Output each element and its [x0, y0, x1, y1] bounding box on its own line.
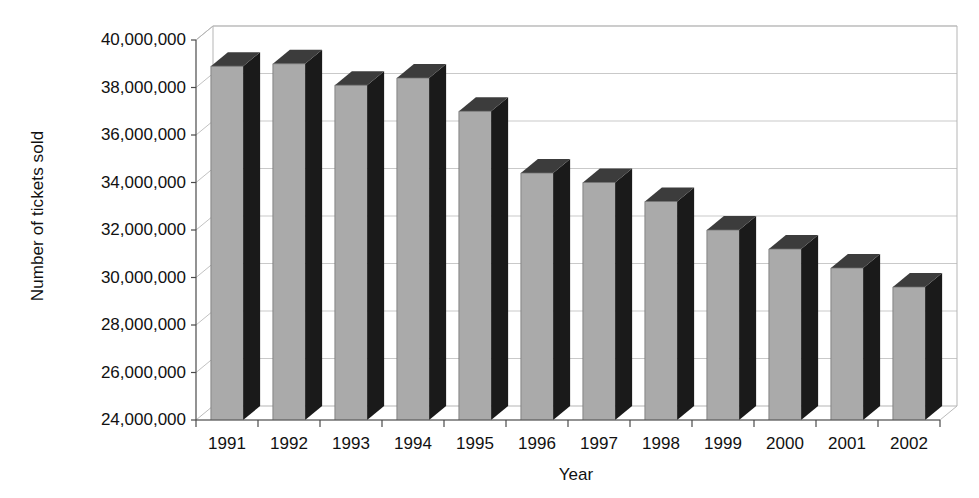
bar-side-face [677, 188, 694, 421]
bar-side-face [615, 169, 632, 421]
bar-front-face [211, 66, 243, 420]
x-axis-title: Year [196, 465, 956, 485]
bar [335, 71, 384, 420]
x-axis-tick-label: 1996 [507, 435, 567, 452]
bar-front-face [335, 85, 367, 420]
bar-front-face [273, 64, 305, 420]
x-axis-tick-label: 1992 [259, 435, 319, 452]
bar [583, 169, 632, 421]
bar-front-face [521, 173, 553, 420]
bar-front-face [831, 268, 863, 420]
x-axis-tick-label: 1994 [383, 435, 443, 452]
bar [645, 188, 694, 421]
bar [521, 159, 570, 420]
bar-side-face [243, 52, 260, 420]
bar-side-face [491, 97, 508, 420]
bar-side-face [429, 64, 446, 420]
x-axis-tick-label: 1999 [693, 435, 753, 452]
bar [211, 52, 260, 420]
x-axis-tick-label: 1993 [321, 435, 381, 452]
x-axis-tick-label: 2001 [817, 435, 877, 452]
bar [273, 50, 322, 420]
bar [397, 64, 446, 420]
x-axis-tick-label: 1991 [197, 435, 257, 452]
x-axis-tick-label: 2000 [755, 435, 815, 452]
bar-side-face [553, 159, 570, 420]
bar-side-face [801, 235, 818, 420]
x-axis-tick-label: 1998 [631, 435, 691, 452]
bar [831, 254, 880, 420]
bar-front-face [459, 111, 491, 420]
bar [769, 235, 818, 420]
bar-front-face [707, 230, 739, 420]
bar [459, 97, 508, 420]
x-axis-tick-label: 1995 [445, 435, 505, 452]
bar-front-face [397, 78, 429, 420]
bar-front-face [583, 183, 615, 421]
bar-side-face [739, 216, 756, 420]
plot-area [0, 0, 979, 498]
bar [707, 216, 756, 420]
bar-front-face [645, 202, 677, 421]
bar-front-face [893, 287, 925, 420]
bar [893, 273, 942, 420]
bar-side-face [305, 50, 322, 420]
bars-layer [211, 50, 942, 420]
bar-side-face [925, 273, 942, 420]
bar-chart: Number of tickets sold 40,000,00038,000,… [0, 0, 979, 498]
bar-front-face [769, 249, 801, 420]
x-axis-tick-label: 2002 [879, 435, 939, 452]
bar-side-face [367, 71, 384, 420]
x-axis-tick-label: 1997 [569, 435, 629, 452]
bar-side-face [863, 254, 880, 420]
